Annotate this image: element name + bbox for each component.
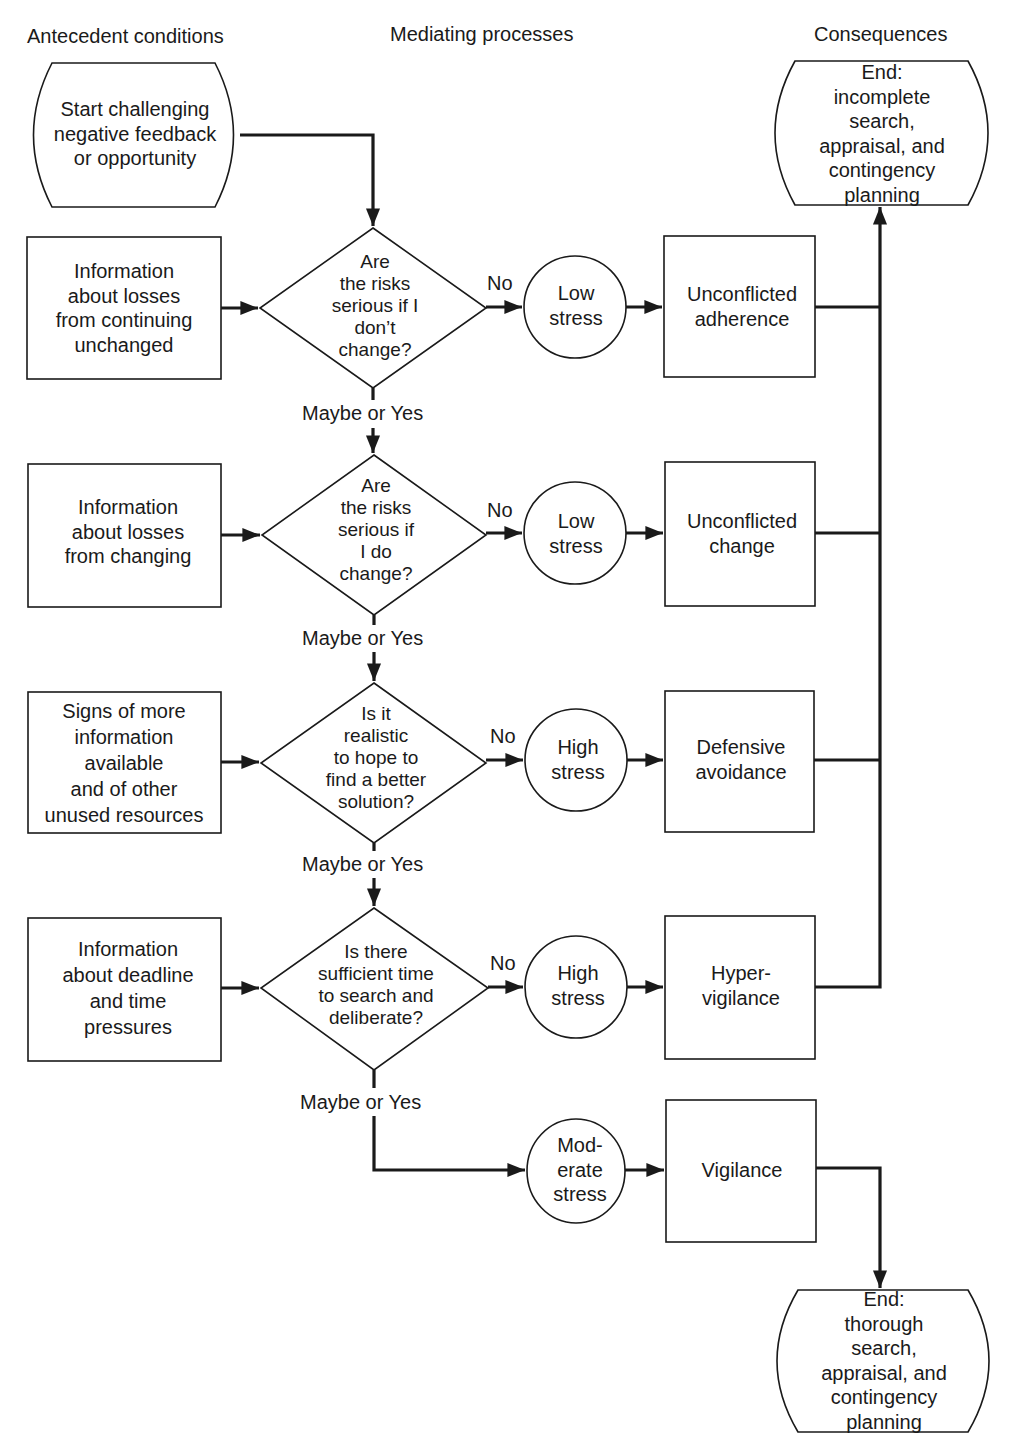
outcome-unconflicted-change: Unconflicted change <box>687 509 797 558</box>
connector-outcome-4 <box>815 207 880 987</box>
connector-start <box>240 135 373 226</box>
stress-high-4: High stress <box>551 961 604 1010</box>
stress-high-3: High stress <box>551 735 604 784</box>
stress-moderate: Mod- erate stress <box>553 1133 606 1207</box>
edge-label-no-4: No <box>490 952 516 974</box>
connector-yes-4b <box>374 1116 525 1170</box>
column-header-antecedent: Antecedent conditions <box>27 24 224 48</box>
edge-label-yes-1: Maybe or Yes <box>302 402 423 424</box>
outcome-hypervigilance: Hyper- vigilance <box>702 961 780 1010</box>
edge-label-no-1: No <box>487 272 513 294</box>
antecedent-deadline-pressures: Information about deadline and time pres… <box>62 936 193 1040</box>
decision-sufficient-time: Is there sufficient time to search and d… <box>318 941 434 1029</box>
outcome-vigilance: Vigilance <box>702 1158 783 1183</box>
outcome-unconflicted-adherence: Unconflicted adherence <box>687 282 797 331</box>
stress-low-1: Low stress <box>549 281 602 330</box>
decision-realistic-better-solution: Is it realistic to hope to find a better… <box>326 703 426 813</box>
connector-vigilance <box>816 1168 880 1288</box>
edge-label-yes-3: Maybe or Yes <box>302 853 423 875</box>
column-header-mediating: Mediating processes <box>390 22 573 46</box>
antecedent-losses-unchanged: Information about losses from continuing… <box>56 259 193 357</box>
start-terminator: Start challenging negative feedback or o… <box>54 97 216 171</box>
edge-label-yes-4: Maybe or Yes <box>300 1091 421 1113</box>
edge-label-no-3: No <box>490 725 516 747</box>
end-thorough-terminator: End: thorough search, appraisal, and con… <box>821 1287 948 1434</box>
decision-risks-if-do-change: Are the risks serious if I do change? <box>338 475 414 585</box>
decision-risks-if-dont-change: Are the risks serious if I don’t change? <box>332 251 419 361</box>
edge-label-no-2: No <box>487 499 513 521</box>
antecedent-signs-more-information: Signs of more information available and … <box>45 698 204 828</box>
column-header-consequences: Consequences <box>814 22 947 46</box>
edge-label-yes-2: Maybe or Yes <box>302 627 423 649</box>
stress-low-2: Low stress <box>549 509 602 558</box>
outcome-defensive-avoidance: Defensive avoidance <box>695 735 786 784</box>
end-incomplete-terminator: End: incomplete search, appraisal, and c… <box>818 60 947 207</box>
antecedent-losses-changing: Information about losses from changing <box>65 495 192 569</box>
